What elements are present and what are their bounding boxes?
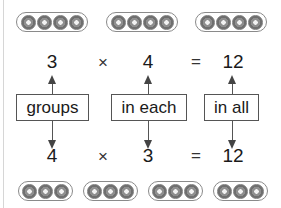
bead-group-bottom-4: [213, 181, 268, 201]
bead-group-bottom-3: [148, 181, 203, 201]
top-equals-sign: =: [186, 52, 206, 72]
bead-icon: [119, 184, 134, 199]
bead-icon: [216, 15, 231, 30]
bead-group-bottom-1: [18, 181, 73, 201]
bead-icon: [111, 15, 126, 30]
label-in-each: in each: [111, 94, 187, 121]
bottom-multiply-sign: ×: [93, 147, 113, 167]
left-edge-line: [3, 0, 4, 208]
bead-icon: [21, 15, 36, 30]
bead-group-top-2: [106, 12, 178, 32]
bead-icon: [69, 15, 84, 30]
bead-group-bottom-2: [83, 181, 138, 201]
arrow-up-icon: [148, 83, 149, 94]
bead-icon: [159, 15, 174, 30]
bead-icon: [217, 184, 232, 199]
bead-icon: [54, 184, 69, 199]
bead-group-top-3: [195, 12, 267, 32]
bottom-equals-sign: =: [186, 146, 206, 166]
arrow-up-icon: [232, 83, 233, 94]
bead-icon: [152, 184, 167, 199]
bead-icon: [200, 15, 215, 30]
arrow-up-icon: [52, 83, 53, 94]
bead-icon: [248, 15, 263, 30]
bead-icon: [127, 15, 142, 30]
bead-group-top-1: [16, 12, 88, 32]
bead-icon: [103, 184, 118, 199]
bead-icon: [168, 184, 183, 199]
bead-icon: [38, 184, 53, 199]
arrow-down-icon: [232, 121, 233, 141]
bead-icon: [232, 15, 247, 30]
bead-icon: [249, 184, 264, 199]
top-factor-2: 4: [133, 52, 163, 72]
bottom-factor-2: 3: [133, 146, 163, 166]
bead-icon: [87, 184, 102, 199]
arrow-down-icon: [148, 121, 149, 141]
bead-icon: [233, 184, 248, 199]
bead-icon: [53, 15, 68, 30]
arrow-down-icon: [52, 121, 53, 141]
bead-icon: [22, 184, 37, 199]
label-in-all: in all: [204, 94, 259, 121]
bead-icon: [37, 15, 52, 30]
label-groups: groups: [16, 94, 89, 121]
top-product: 12: [218, 52, 248, 72]
bottom-product: 12: [218, 146, 248, 166]
top-multiply-sign: ×: [93, 53, 113, 73]
top-factor-1: 3: [37, 52, 67, 72]
bottom-factor-1: 4: [37, 146, 67, 166]
bead-icon: [184, 184, 199, 199]
bead-icon: [143, 15, 158, 30]
